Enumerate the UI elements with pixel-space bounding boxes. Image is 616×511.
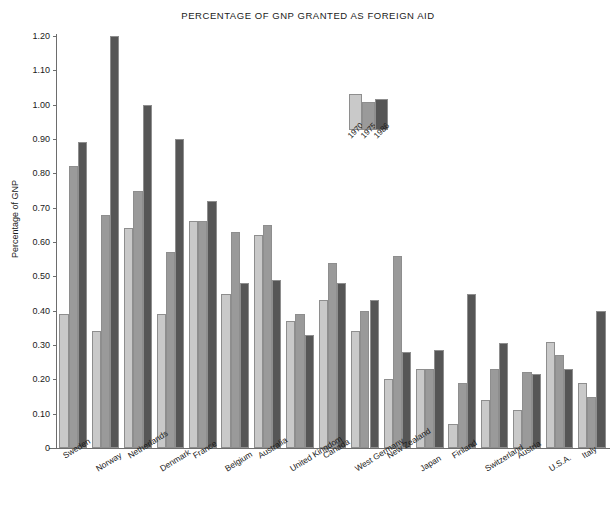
bar bbox=[596, 311, 605, 448]
y-tick-label: 0.70 bbox=[4, 203, 50, 213]
bar bbox=[101, 215, 110, 448]
bar bbox=[198, 221, 207, 448]
bar bbox=[532, 374, 541, 448]
bar-group bbox=[122, 36, 154, 448]
bar bbox=[78, 142, 87, 448]
bar bbox=[434, 350, 443, 448]
chart-title: PERCENTAGE OF GNP GRANTED AS FOREIGN AID bbox=[0, 10, 616, 21]
y-tick-label: 0.40 bbox=[4, 306, 50, 316]
bar-group bbox=[478, 36, 510, 448]
bar bbox=[143, 105, 152, 448]
bar bbox=[448, 424, 457, 448]
bar-group bbox=[446, 36, 478, 448]
bar bbox=[240, 283, 249, 448]
x-tick-label: Japan bbox=[418, 453, 443, 474]
y-tick-label: 0.20 bbox=[4, 374, 50, 384]
bar-group bbox=[57, 36, 89, 448]
bar bbox=[221, 294, 230, 449]
bar bbox=[59, 314, 68, 448]
bar bbox=[555, 355, 564, 448]
y-tick-label: 0.90 bbox=[4, 134, 50, 144]
bar bbox=[393, 256, 402, 448]
chart-figure: PERCENTAGE OF GNP GRANTED AS FOREIGN AID… bbox=[0, 0, 616, 511]
bar-group bbox=[154, 36, 186, 448]
bar-group bbox=[251, 36, 283, 448]
bar bbox=[564, 369, 573, 448]
bar-group bbox=[187, 36, 219, 448]
bar bbox=[370, 300, 379, 448]
bar bbox=[319, 300, 328, 448]
x-tick-label: U.S.A. bbox=[547, 452, 573, 473]
chart-legend: 197019751986 bbox=[349, 96, 439, 166]
bar bbox=[328, 263, 337, 448]
bar bbox=[231, 232, 240, 448]
bar-group bbox=[219, 36, 251, 448]
bar bbox=[166, 252, 175, 448]
bar-group bbox=[89, 36, 121, 448]
bar bbox=[587, 397, 596, 449]
y-tick-label: 0.50 bbox=[4, 271, 50, 281]
bar bbox=[305, 335, 314, 448]
bar bbox=[522, 372, 531, 448]
y-tick-label: 0.60 bbox=[4, 237, 50, 247]
y-tick-label: 1.00 bbox=[4, 100, 50, 110]
bar-group bbox=[511, 36, 543, 448]
bar bbox=[384, 379, 393, 448]
bar bbox=[110, 36, 119, 448]
bar bbox=[402, 352, 411, 448]
y-tick-label: 1.10 bbox=[4, 65, 50, 75]
bar bbox=[499, 343, 508, 448]
bar bbox=[124, 228, 133, 448]
y-tick-label: 0.80 bbox=[4, 168, 50, 178]
bar bbox=[272, 280, 281, 448]
y-tick-label: 1.20 bbox=[4, 31, 50, 41]
bar bbox=[133, 191, 142, 449]
x-tick-label: Norway bbox=[94, 450, 123, 474]
bar bbox=[490, 369, 499, 448]
bar-group bbox=[316, 36, 348, 448]
bar bbox=[360, 311, 369, 448]
bar bbox=[458, 383, 467, 448]
bar bbox=[337, 283, 346, 448]
y-tick-mark bbox=[53, 448, 57, 449]
bar-group bbox=[284, 36, 316, 448]
x-tick-label: Denmark bbox=[158, 447, 192, 473]
bar bbox=[189, 221, 198, 448]
x-tick-label: Belgium bbox=[223, 449, 254, 474]
bar bbox=[254, 235, 263, 448]
y-tick-label: 0 bbox=[4, 443, 50, 453]
bar-group bbox=[576, 36, 608, 448]
bar bbox=[546, 342, 555, 448]
bar bbox=[263, 225, 272, 448]
bar bbox=[467, 294, 476, 449]
bar bbox=[578, 383, 587, 448]
y-tick-label: 0.30 bbox=[4, 340, 50, 350]
plot-area bbox=[57, 36, 610, 448]
bar bbox=[175, 139, 184, 448]
y-tick-label: 0.10 bbox=[4, 409, 50, 419]
bar bbox=[92, 331, 101, 448]
bar bbox=[207, 201, 216, 448]
bar bbox=[286, 321, 295, 448]
bar bbox=[351, 331, 360, 448]
bar-group bbox=[543, 36, 575, 448]
bar bbox=[69, 166, 78, 448]
bar bbox=[481, 400, 490, 448]
bar bbox=[295, 314, 304, 448]
